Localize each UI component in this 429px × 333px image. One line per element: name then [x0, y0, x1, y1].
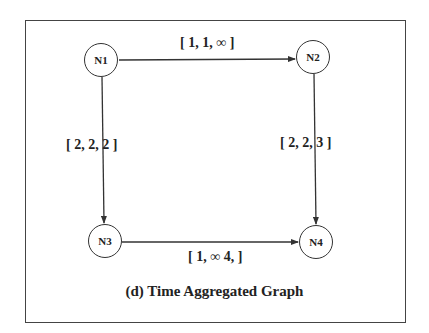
edge-label-n2-n4: [ 2, 2, 3 ]	[280, 135, 331, 151]
node-n3: N3	[88, 224, 122, 258]
node-label: N2	[306, 51, 319, 63]
node-label: N3	[98, 235, 111, 247]
diagram-canvas: N1 N2 N3 N4 [ 1, 1, ∞ ] [ 2, 2, 2 ] [ 2,…	[0, 0, 429, 333]
edge-label-n1-n2: [ 1, 1, ∞ ]	[180, 35, 234, 51]
node-label: N1	[94, 54, 107, 66]
node-n2: N2	[296, 40, 330, 74]
node-n4: N4	[299, 225, 333, 259]
edge-label-n1-n3: [ 2, 2, 2 ]	[66, 137, 117, 153]
edge-label-n3-n4: [ 1, ∞ 4, ]	[188, 249, 242, 265]
node-label: N4	[309, 236, 322, 248]
edge-n1-n2	[119, 59, 295, 60]
figure-caption: (d) Time Aggregated Graph	[0, 283, 429, 300]
node-n1: N1	[84, 43, 118, 77]
